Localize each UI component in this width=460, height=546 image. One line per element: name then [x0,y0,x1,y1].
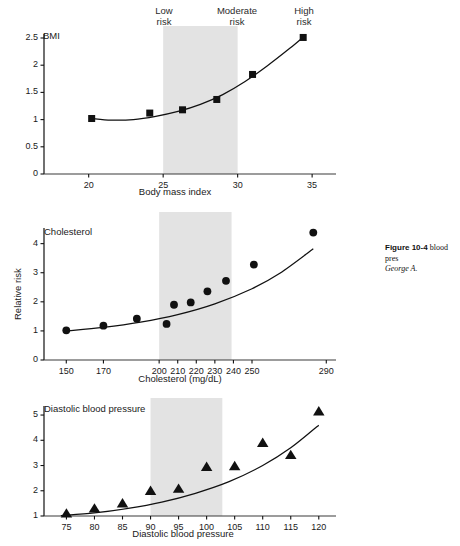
data-point-circle [187,299,195,307]
y-tick-label: 1 [10,114,38,124]
x-tick-label: 170 [88,366,118,376]
x-tick-label: 90 [136,522,166,532]
cholesterol-panel: Cholesterol Relative risk Cholesterol (m… [0,212,345,390]
x-tick-label: 75 [51,522,81,532]
y-tick-label: 2 [10,296,38,306]
diastolic-bp-panel-title: Diastolic blood pressure [44,403,145,414]
data-point-triangle [117,498,128,507]
figure-caption: Figure 10-4 blood pres George A. [385,243,460,275]
y-tick-label: 1 [10,325,38,335]
data-point-circle [309,229,317,237]
data-point-triangle [257,438,268,447]
cholesterol-plot [0,212,345,390]
x-tick-label: 30 [223,180,253,190]
figure-caption-source: George A. [385,264,460,275]
y-tick-label: 1 [10,510,38,520]
data-point-triangle [229,461,240,470]
data-point-circle [204,287,212,295]
data-point-triangle [89,503,100,512]
data-point-square [179,106,186,113]
band-label-high: High risk [278,5,330,27]
y-tick-label: 0 [10,168,38,178]
data-point-square [88,115,95,122]
data-point-square [249,71,256,78]
x-tick-label: 120 [304,522,334,532]
data-point-circle [163,320,171,328]
x-tick-label: 110 [248,522,278,532]
data-point-circle [170,301,178,309]
x-tick-label: 250 [237,366,267,376]
x-tick-label: 150 [51,366,81,376]
y-tick-label: 4 [10,238,38,248]
diastolic-bp-panel: Diastolic blood pressure Diastolic blood… [0,398,345,546]
y-tick-label: 2 [10,485,38,495]
y-tick-label: 3 [10,460,38,470]
bmi-panel-title: BMI [43,30,60,41]
data-point-circle [133,315,141,323]
data-point-circle [222,277,230,285]
x-tick-label: 105 [220,522,250,532]
y-tick-label: 3 [10,267,38,277]
data-point-square [146,110,153,117]
data-point-triangle [313,406,324,415]
x-tick-label: 85 [108,522,138,532]
x-tick-label: 20 [74,180,104,190]
y-tick-label: 5 [10,409,38,419]
x-tick-label: 290 [311,366,341,376]
x-tick-label: 100 [192,522,222,532]
y-tick-label: 0.5 [10,141,38,151]
risk-band-shading [163,26,237,174]
y-tick-label: 2.5 [10,32,38,42]
x-tick-label: 25 [148,180,178,190]
x-tick-label: 115 [276,522,306,532]
risk-band-shading [151,398,223,516]
figure-root: Low risk Moderate risk High risk BMI Bod… [0,0,460,546]
data-point-square [300,34,307,41]
y-tick-label: 0 [10,354,38,364]
data-point-circle [100,322,108,330]
cholesterol-panel-title: Cholesterol [44,226,92,237]
data-point-triangle [61,508,72,517]
bmi-panel: BMI Body mass index 00.511.522.520253035 [0,26,345,202]
risk-band-shading [159,212,231,360]
bmi-plot [0,26,345,202]
data-point-square [213,96,220,103]
x-tick-label: 95 [164,522,194,532]
data-point-circle [62,326,70,334]
x-tick-label: 35 [297,180,327,190]
band-label-moderate: Moderate risk [202,5,272,27]
data-point-circle [250,261,258,269]
y-tick-label: 2 [10,59,38,69]
figure-caption-heading: Figure 10-4 [385,243,428,252]
y-tick-label: 1.5 [10,86,38,96]
band-label-low: Low risk [138,5,190,27]
x-tick-label: 80 [79,522,109,532]
y-tick-label: 4 [10,434,38,444]
